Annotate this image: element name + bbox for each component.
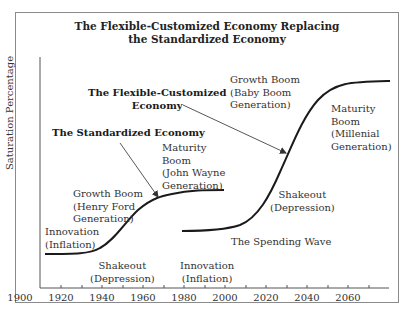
x-tick-label: 2040 bbox=[294, 292, 319, 303]
innovation-label-1: Innovation (Inflation) bbox=[45, 226, 99, 251]
y-axis-label: Saturation Percentage bbox=[4, 56, 15, 170]
label-line: (Baby Boom bbox=[230, 87, 300, 100]
spending-wave-label: The Spending Wave bbox=[231, 236, 331, 249]
label-line: Generation) bbox=[230, 99, 300, 112]
shakeout-label-1: Shakeout (Depression) bbox=[90, 260, 155, 285]
label-line: Generation) bbox=[331, 141, 392, 154]
x-tick-label: 1940 bbox=[89, 292, 114, 303]
x-tick-label: 2000 bbox=[212, 292, 237, 303]
label-line: Shakeout bbox=[90, 260, 155, 273]
label-line: Boom bbox=[331, 116, 392, 129]
label-line: Shakeout bbox=[270, 189, 335, 202]
growth-boom-label-1: Growth Boom (Henry Ford Generation) bbox=[73, 188, 143, 226]
flexible-label-line: The Flexible-Customized bbox=[88, 87, 226, 100]
x-tick-label: 2060 bbox=[335, 292, 360, 303]
label-line: (Depression) bbox=[270, 202, 335, 215]
label-line: (Depression) bbox=[90, 273, 155, 286]
flexible-economy-label: The Flexible-Customized Economy bbox=[88, 87, 226, 112]
shakeout-label-2: Shakeout (Depression) bbox=[270, 189, 335, 214]
label-line: (John Wayne bbox=[162, 167, 225, 180]
label-line: (Henry Ford bbox=[73, 201, 143, 214]
maturity-boom-label-2: Maturity Boom (Millenial Generation) bbox=[331, 103, 392, 153]
flexible-label-line: Economy bbox=[88, 100, 226, 113]
label-line: Maturity bbox=[162, 142, 225, 155]
growth-boom-label-2: Growth Boom (Baby Boom Generation) bbox=[230, 74, 300, 112]
standardized-economy-label: The Standardized Economy bbox=[52, 127, 205, 140]
label-line: (Inflation) bbox=[45, 239, 99, 252]
label-line: Innovation bbox=[45, 226, 99, 239]
maturity-boom-label-1: Maturity Boom (John Wayne Generation) bbox=[162, 142, 225, 192]
label-line: Boom bbox=[162, 155, 225, 168]
x-tick-label: 1920 bbox=[48, 292, 73, 303]
label-line: Generation) bbox=[162, 180, 225, 193]
x-tick-label: 2020 bbox=[253, 292, 278, 303]
innovation-label-2: Innovation (Inflation) bbox=[180, 260, 234, 285]
x-tick-label: 1960 bbox=[130, 292, 155, 303]
label-line: (Millenial bbox=[331, 128, 392, 141]
label-line: Generation) bbox=[73, 213, 143, 226]
label-line: Growth Boom bbox=[230, 74, 300, 87]
x-tick-label: 1900 bbox=[7, 292, 32, 303]
label-line: Maturity bbox=[331, 103, 392, 116]
label-line: (Inflation) bbox=[180, 273, 234, 286]
label-line: Innovation bbox=[180, 260, 234, 273]
x-tick-label: 1980 bbox=[171, 292, 196, 303]
label-line: Growth Boom bbox=[73, 188, 143, 201]
